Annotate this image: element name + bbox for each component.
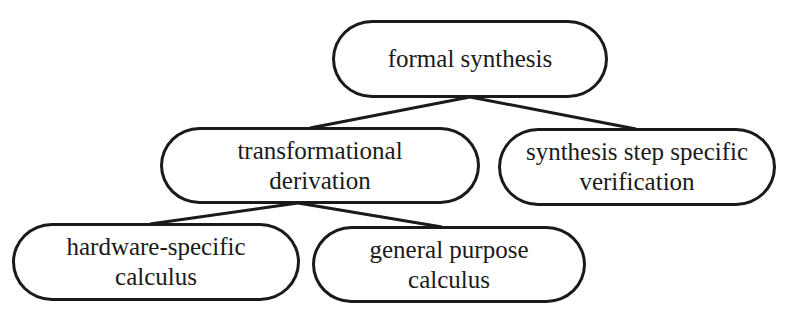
node-general-purpose-calculus: general purpose calculus [312,226,586,303]
node-transformational-derivation: transformational derivation [160,127,480,204]
node-label: synthesis step specific verification [526,137,748,197]
node-synthesis-step-specific-verification: synthesis step specific verification [498,128,776,206]
node-hardware-specific-calculus: hardware-specific calculus [12,223,300,301]
node-label: transformational derivation [237,136,402,196]
edge-derivation-to-general-purpose [298,203,442,227]
edge-formal-synthesis-to-transformational-derivation [310,97,470,128]
edge-formal-synthesis-to-verification [470,97,636,129]
node-formal-synthesis: formal synthesis [332,20,608,98]
edge-derivation-to-hardware-specific [150,203,298,224]
node-label: hardware-specific calculus [66,232,245,292]
node-label: general purpose calculus [370,235,529,295]
node-label: formal synthesis [388,44,553,74]
